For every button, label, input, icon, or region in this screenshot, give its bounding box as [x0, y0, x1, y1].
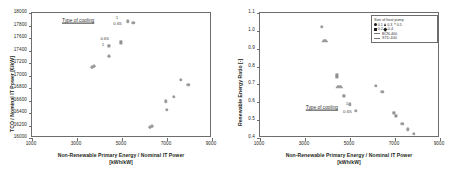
annotation-value: 1: [102, 43, 104, 47]
y-tick: [257, 49, 260, 50]
legend-item: ×0.5: [394, 23, 402, 27]
y-tick-label: 0.7: [248, 81, 255, 86]
y-tick-label: 1.1: [248, 10, 255, 15]
data-point: [172, 95, 175, 98]
x-tick-label: 3000: [71, 142, 82, 147]
legend-marker-circle-icon: [374, 23, 377, 26]
plot-area-left: Type of cooling10.650.651: [31, 12, 211, 137]
panel-right-rer: Type of cooling10.65 Renewable Energy Ra…: [228, 0, 455, 177]
y-tick: [29, 26, 32, 27]
annotation-value: 0.65: [343, 110, 352, 114]
y-tick-label: 17000: [14, 72, 27, 77]
x-tick-label: 9000: [434, 142, 445, 147]
legend-item-label: STD-400: [382, 36, 397, 40]
x-tick-label: 1000: [26, 142, 37, 147]
y-tick-label: 1.0: [248, 28, 255, 33]
legend-marker-triangle-icon: [384, 23, 386, 26]
data-point: [354, 109, 357, 112]
x-tick-label: 5000: [116, 142, 127, 147]
annotation-value: 0.65: [113, 22, 122, 26]
annotation-type-of-cooling: Type of cooling: [62, 18, 94, 23]
x-axis-title-right-main: Non-Renewable Primary Energy / Nominal I…: [286, 152, 413, 158]
x-axis-title-right-units: [kWh/kW]: [337, 159, 361, 165]
y-tick: [29, 76, 32, 77]
y-tick-label: 17600: [14, 35, 27, 40]
y-tick: [257, 120, 260, 121]
x-tick-label: 7000: [389, 142, 400, 147]
data-point: [165, 108, 168, 111]
legend-marker-x-icon: ×: [394, 23, 396, 27]
data-point: [179, 78, 182, 81]
data-point: [107, 45, 110, 48]
y-tick: [257, 31, 260, 32]
y-tick-label: 17200: [14, 60, 27, 65]
y-tick: [29, 63, 32, 64]
legend-title: Size of heat pump: [374, 18, 435, 22]
data-point: [187, 83, 190, 86]
x-axis-title-left-main: Non-Renewable Primary Energy / Nominal I…: [58, 152, 185, 158]
y-tick-label: 17400: [14, 47, 27, 52]
figure-two-scatter-panels: Type of cooling10.650.651 TCO / Nominal …: [0, 0, 455, 177]
data-point: [132, 21, 135, 24]
y-tick: [257, 84, 260, 85]
data-point: [107, 54, 110, 57]
data-point: [321, 36, 324, 39]
data-point: [335, 82, 338, 85]
data-point: [90, 65, 93, 68]
data-point: [149, 126, 152, 129]
y-tick: [29, 101, 32, 102]
y-tick-label: 0.6: [248, 99, 255, 104]
y-tick: [29, 51, 32, 52]
data-point: [348, 103, 351, 106]
y-tick-label: 0.5: [248, 117, 255, 122]
x-axis-title-left-units: [kWh/kW]: [109, 159, 133, 165]
legend-line-rows: BCN-400STD-400: [374, 32, 435, 41]
y-tick: [29, 113, 32, 114]
x-tick-label: 9000: [206, 142, 217, 147]
data-point: [119, 41, 122, 44]
x-tick-label: 1000: [254, 142, 265, 147]
data-point: [394, 114, 397, 117]
data-point: [412, 132, 415, 135]
y-tick-label: 16000: [14, 135, 27, 140]
legend-line-icon: [374, 33, 380, 34]
y-tick: [257, 67, 260, 68]
panel-left-tco: Type of cooling10.650.651 TCO / Nominal …: [0, 0, 227, 177]
annotation-value: 1: [346, 102, 348, 106]
y-tick-label: 17800: [14, 22, 27, 27]
y-tick-label: 0.9: [248, 45, 255, 50]
y-tick-label: 16600: [14, 97, 27, 102]
legend-line-icon: [374, 38, 380, 39]
legend-item-label: 0.5: [397, 23, 402, 27]
data-point: [374, 84, 377, 87]
data-point: [336, 76, 339, 79]
y-tick: [257, 102, 260, 103]
legend-marker-square-icon: [374, 28, 377, 31]
legend-marker-rows: 0.10.3×0.50.20.4: [374, 23, 435, 32]
y-tick-label: 18000: [14, 10, 27, 15]
y-tick: [29, 38, 32, 39]
y-tick-label: 16400: [14, 110, 27, 115]
x-axis-title-left: Non-Renewable Primary Energy / Nominal I…: [58, 152, 185, 166]
x-tick-label: 5000: [344, 142, 355, 147]
y-tick-label: 0.4: [248, 135, 255, 140]
data-point: [380, 90, 383, 93]
data-point: [342, 94, 345, 97]
legend-size-of-heat-pump: Size of heat pump 0.10.3×0.50.20.4 BCN-4…: [371, 15, 438, 43]
x-axis-title-right: Non-Renewable Primary Energy / Nominal I…: [286, 152, 413, 166]
data-point: [126, 19, 129, 22]
annotation-value: 1: [116, 16, 118, 20]
y-tick-label: 16200: [14, 122, 27, 127]
legend-row: STD-400: [374, 36, 435, 40]
x-tick-label: 3000: [299, 142, 310, 147]
y-tick-label: 16800: [14, 85, 27, 90]
data-point: [401, 122, 404, 125]
y-tick: [29, 88, 32, 89]
annotation-type-of-cooling: Type of cooling: [306, 106, 338, 111]
y-tick-label: 0.8: [248, 63, 255, 68]
y-axis-title-right: Renewable Energy Ratio [-]: [237, 59, 244, 126]
y-tick: [29, 13, 32, 14]
y-tick: [29, 126, 32, 127]
data-point: [320, 25, 323, 28]
x-tick-label: 7000: [161, 142, 172, 147]
